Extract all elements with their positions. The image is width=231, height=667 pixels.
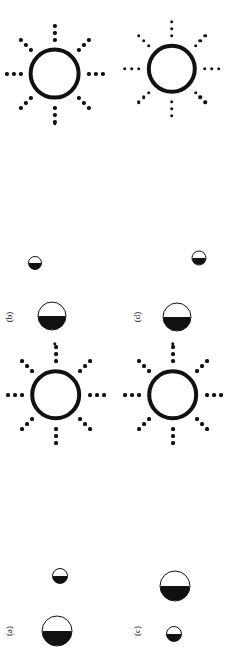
sun-ray-dot — [19, 72, 22, 75]
sun-ray-dot — [54, 434, 57, 437]
sun-icon — [122, 344, 225, 447]
sun-ray-dot — [171, 434, 174, 437]
sun-ray-dot — [170, 34, 173, 37]
sun-ray-dot — [87, 72, 90, 75]
sun-icon — [5, 344, 108, 447]
sun-ray-dot — [77, 96, 80, 99]
sun-ray-dot — [147, 44, 150, 47]
sun-ray-dot — [87, 38, 90, 41]
sun-ray-dot — [6, 393, 9, 396]
sun-ray-dot — [29, 48, 32, 51]
sun-ray-dot — [54, 352, 57, 355]
figure-canvas: (a)(b)(c)(d) — [0, 0, 231, 667]
sun-ray-dot — [82, 101, 85, 104]
sun-ray-dot — [212, 393, 215, 396]
panel-label-a: (a) — [5, 626, 14, 636]
sun-ray-dot — [78, 417, 81, 420]
sun-ray-dot — [54, 427, 57, 430]
sun-ray-dot — [170, 27, 173, 30]
half-filled-circle — [28, 256, 42, 270]
sun-ray-dot — [54, 345, 57, 348]
sun-ray-dot — [123, 393, 126, 396]
sun-ray-dot — [199, 39, 202, 42]
sun-ray-dot — [83, 364, 86, 367]
sun-ray-dot — [171, 427, 174, 430]
sun-ray-dot — [170, 114, 173, 117]
sun-ray-dot — [88, 359, 91, 362]
sun-ray-dot — [123, 67, 126, 70]
sun-ray-dot — [24, 43, 27, 46]
sun-ray-dot — [205, 393, 208, 396]
sun-ray-dot — [29, 96, 32, 99]
sun-ray-dot — [171, 441, 174, 444]
sun-ray-dot — [25, 364, 28, 367]
sun-ray-dot — [54, 359, 57, 362]
sun-ray-dot — [195, 417, 198, 420]
sun-ray-dot — [194, 44, 197, 47]
sun-ray-dot — [5, 72, 8, 75]
sun-ray-dot — [219, 393, 222, 396]
sun-ray-dot — [53, 31, 56, 34]
sun-disc — [29, 48, 81, 100]
sun-ray-dot — [102, 393, 105, 396]
sun-disc — [147, 44, 197, 94]
sun-ray-dot — [83, 422, 86, 425]
sun-ray-dot — [88, 427, 91, 430]
sun-ray-dot — [53, 24, 56, 27]
sun-ray-dot — [12, 72, 15, 75]
sun-ray-dot — [95, 393, 98, 396]
sun-ray-dot — [19, 106, 22, 109]
half-filled-circle — [38, 302, 67, 331]
sun-ray-dot — [170, 107, 173, 110]
sun-ray-dot — [137, 101, 140, 104]
sun-ray-dot — [142, 422, 145, 425]
sun-ray-dot — [13, 393, 16, 396]
half-filled-circle — [42, 616, 73, 647]
sun-ray-dot — [87, 106, 90, 109]
panel-label-b: (b) — [5, 312, 14, 323]
half-filled-circle — [166, 626, 182, 642]
sun-ray-dot — [205, 359, 208, 362]
sun-ray-dot — [194, 91, 197, 94]
sun-icon — [122, 19, 222, 119]
sun-ray-dot — [195, 369, 198, 372]
sun-ray-dot — [130, 67, 133, 70]
sun-ray-dot — [54, 441, 57, 444]
sun-ray-dot — [20, 359, 23, 362]
sun-ray-dot — [142, 96, 145, 99]
sun-ray-dot — [78, 369, 81, 372]
sun-ray-dot — [147, 417, 150, 420]
sun-ray-dot — [24, 101, 27, 104]
sun-ray-dot — [171, 345, 174, 348]
half-filled-circle — [160, 571, 191, 602]
sun-ray-dot — [147, 369, 150, 372]
sun-ray-dot — [53, 113, 56, 116]
panel-label-c: (c) — [133, 626, 142, 636]
sun-ray-dot — [25, 422, 28, 425]
sun-ray-dot — [30, 417, 33, 420]
sun-ray-dot — [130, 393, 133, 396]
sun-ray-dot — [200, 422, 203, 425]
sun-ray-dot — [82, 43, 85, 46]
sun-ray-dot — [19, 38, 22, 41]
sun-ray-dot — [88, 393, 91, 396]
sun-ray-dot — [77, 48, 80, 51]
sun-ray-dot — [199, 96, 202, 99]
sun-ray-dot — [94, 72, 97, 75]
half-filled-circle — [52, 568, 68, 584]
sun-ray-dot — [171, 352, 174, 355]
sun-ray-dot — [170, 20, 173, 23]
sun-ray-dot — [217, 67, 220, 70]
sun-ray-dot — [200, 364, 203, 367]
half-filled-circle — [192, 251, 207, 266]
sun-ray-dot — [137, 359, 140, 362]
sun-ray-dot — [205, 427, 208, 430]
sun-ray-dot — [137, 427, 140, 430]
sun-ray-dot — [142, 39, 145, 42]
sun-ray-dot — [53, 38, 56, 41]
sun-ray-dot — [137, 34, 140, 37]
sun-ray-dot — [171, 359, 174, 362]
sun-ray-dot — [30, 369, 33, 372]
half-filled-circle — [163, 303, 192, 332]
sun-ray-dot — [203, 67, 206, 70]
